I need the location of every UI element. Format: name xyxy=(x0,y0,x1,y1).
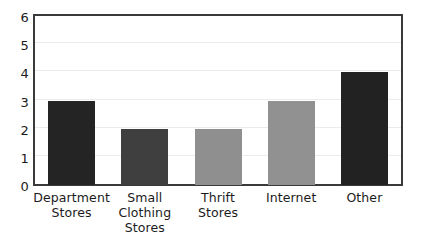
y-tick-label: 1 xyxy=(5,150,29,165)
bar-chart: 0123456 DepartmentStoresSmall ClothingSt… xyxy=(0,0,422,237)
y-axis: 0123456 xyxy=(0,14,29,186)
x-tick-label: ThriftStores xyxy=(177,190,258,220)
x-tick-label-line1: Small Clothing xyxy=(118,190,171,220)
x-tick-label: Internet xyxy=(251,190,332,205)
bar xyxy=(341,72,388,185)
y-tick-label: 0 xyxy=(5,179,29,194)
y-tick-label: 3 xyxy=(5,94,29,109)
x-tick-label-line2: Stores xyxy=(177,205,258,220)
x-tick-label-line2: Stores xyxy=(104,220,185,235)
bar xyxy=(195,129,242,185)
x-tick-label-line1: Department xyxy=(33,190,110,205)
x-axis: DepartmentStoresSmall ClothingStoresThri… xyxy=(35,190,401,236)
x-tick-label-line2: Stores xyxy=(31,205,112,220)
x-tick-label-line1: Internet xyxy=(266,190,316,205)
y-tick-label: 2 xyxy=(5,122,29,137)
y-tick-label: 5 xyxy=(5,38,29,53)
bar xyxy=(48,101,95,186)
bar xyxy=(268,101,315,186)
y-tick-label: 4 xyxy=(5,66,29,81)
x-tick-label: DepartmentStores xyxy=(31,190,112,220)
bars-group xyxy=(35,16,401,185)
y-tick-label: 6 xyxy=(5,10,29,25)
x-tick-label-line1: Thrift xyxy=(201,190,235,205)
bar xyxy=(121,129,168,185)
x-tick-label: Small ClothingStores xyxy=(104,190,185,235)
x-tick-label-line1: Other xyxy=(346,190,382,205)
x-tick-label: Other xyxy=(324,190,405,205)
